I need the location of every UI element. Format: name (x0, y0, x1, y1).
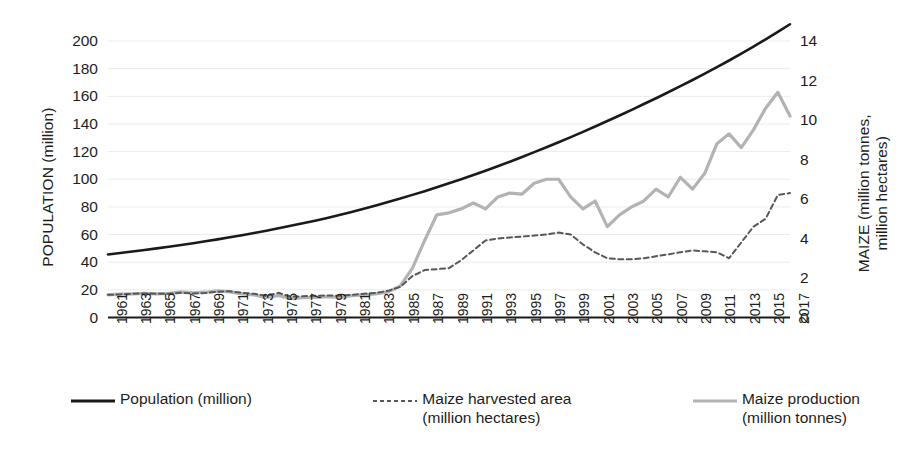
y-axis-left-tick-label: 20 (34, 281, 98, 299)
y-axis-right-tick-label: 8 (800, 151, 840, 169)
x-axis-tick-label: 1981 (357, 293, 373, 324)
series-line (108, 24, 790, 254)
legend-entry[interactable]: Maize harvested area (million hectares) (372, 390, 571, 428)
y-axis-left-tick-label: 80 (34, 198, 98, 216)
y-axis-left-tick-label: 0 (34, 309, 98, 327)
y-axis-right-tick-label: 2 (800, 269, 840, 287)
y-axis-left-tick-label: 60 (34, 226, 98, 244)
x-axis-tick-label: 2017 (796, 293, 812, 324)
x-axis-tick-label: 2005 (649, 293, 665, 324)
x-axis-tick-label: 1989 (455, 293, 471, 324)
x-axis-tick-label: 2003 (625, 293, 641, 324)
x-axis-tick-label: 1965 (162, 293, 178, 324)
y-axis-right-tick-label: 12 (800, 72, 840, 90)
x-axis-tick-label: 1975 (284, 293, 300, 324)
y-axis-left-tick-label: 120 (34, 143, 98, 161)
series-line (108, 193, 790, 297)
y-axis-left-tick-label: 200 (34, 32, 98, 50)
legend-label: Maize production (million tonnes) (742, 390, 860, 428)
x-axis-tick-label: 2011 (722, 294, 738, 324)
x-axis-tick-label: 1963 (138, 293, 154, 324)
chart-figure: POPULATION (million) MAIZE (million tonn… (0, 0, 901, 461)
x-axis-tick-label: 1979 (333, 293, 349, 324)
x-axis-tick-label: 1991 (479, 293, 495, 324)
x-axis-tick-label: 2013 (747, 293, 763, 324)
x-axis-tick-label: 1973 (260, 293, 276, 324)
x-axis-tick-label: 2001 (601, 293, 617, 324)
gridlines (108, 41, 790, 290)
x-axis-tick-label: 1961 (114, 293, 130, 324)
x-axis-tick-label: 1983 (381, 293, 397, 324)
y-axis-left-tick-label: 40 (34, 253, 98, 271)
x-axis-tick-label: 1993 (503, 293, 519, 324)
legend-entry[interactable]: Population (million) (70, 390, 252, 409)
x-axis-tick-label: 1995 (528, 293, 544, 324)
legend-entry[interactable]: Maize production (million tonnes) (692, 390, 860, 428)
legend-line-icon (372, 394, 418, 408)
x-axis-tick-label: 1969 (211, 293, 227, 324)
x-axis-tick-label: 1977 (308, 293, 324, 324)
chart-legend: Population (million)Maize harvested area… (70, 390, 860, 428)
x-axis-tick-label: 2015 (771, 293, 787, 324)
y-axis-left-tick-label: 180 (34, 60, 98, 78)
x-axis-tick-label: 1967 (187, 293, 203, 324)
y-axis-right-tick-label: 10 (800, 111, 840, 129)
x-axis-tick-label: 1971 (235, 293, 251, 324)
legend-line-icon (692, 394, 738, 408)
y-axis-left-tick-label: 140 (34, 115, 98, 133)
y-axis-right-tick-label: 6 (800, 190, 840, 208)
y-axis-right-tick-label: 4 (800, 230, 840, 248)
legend-label: Maize harvested area (million hectares) (422, 390, 571, 428)
x-axis-tick-label: 1997 (552, 293, 568, 324)
data-series-layer (108, 24, 790, 298)
x-axis-tick-label: 1999 (576, 293, 592, 324)
x-axis-tick-label: 1987 (430, 293, 446, 324)
x-axis-tick-label: 2007 (674, 293, 690, 324)
x-axis-tick-label: 1985 (406, 293, 422, 324)
y-axis-left-tick-label: 160 (34, 87, 98, 105)
legend-label: Population (million) (120, 390, 252, 409)
y-axis-right-tick-label: 14 (800, 32, 840, 50)
y-axis-left-tick-label: 100 (34, 170, 98, 188)
legend-line-icon (70, 394, 116, 408)
y-axis-right-title: MAIZE (million tonnes, million hectares) (855, 68, 892, 318)
x-axis-tick-label: 2009 (698, 293, 714, 324)
